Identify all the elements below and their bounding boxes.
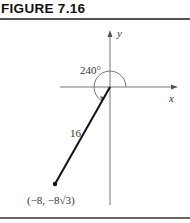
figure-diagram [0, 0, 190, 223]
y-axis-label: y [117, 27, 122, 39]
point-dot [53, 182, 57, 186]
length-label: 16 [70, 127, 81, 139]
y-axis-arrow-icon [108, 30, 113, 37]
bottom-rule [0, 217, 190, 219]
angle-label: 240° [80, 64, 101, 76]
x-axis-label: x [169, 92, 174, 104]
point-label: (−8, −8√3) [27, 194, 75, 206]
x-axis-arrow-icon [171, 85, 178, 90]
terminal-side [55, 87, 110, 184]
